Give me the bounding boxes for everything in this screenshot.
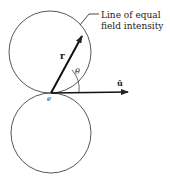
annotation-line1: Line of equal xyxy=(101,10,161,20)
leader-line xyxy=(80,14,99,25)
lower-circle xyxy=(11,93,91,173)
annotation-line2: field intensity xyxy=(101,21,164,31)
vector-r-arrow xyxy=(51,36,82,93)
label-u-hat: û xyxy=(117,78,123,88)
field-diagram: Line of equal field intensity r θ û e xyxy=(0,0,170,184)
label-r: r xyxy=(60,51,65,61)
label-charge-e: e xyxy=(47,95,51,103)
upper-circle xyxy=(9,11,91,93)
label-theta: θ xyxy=(75,67,80,76)
unit-vector-arrow xyxy=(51,92,128,93)
